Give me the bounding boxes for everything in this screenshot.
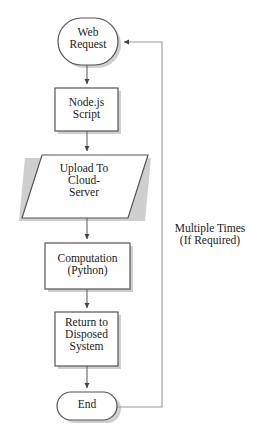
node-end[interactable] (57, 392, 117, 420)
flowchart-canvas: Web Request Node.js Script Upload To Clo… (0, 0, 262, 437)
node-nodejs-script[interactable] (55, 88, 118, 131)
node-web-request[interactable] (58, 18, 118, 65)
edge-end-to-web-request-feedback (117, 42, 162, 407)
node-return-disposed-system[interactable] (55, 312, 118, 366)
flowchart-svg (0, 0, 262, 437)
node-upload-cloud-server[interactable] (22, 155, 148, 218)
node-computation-python[interactable] (45, 243, 130, 289)
